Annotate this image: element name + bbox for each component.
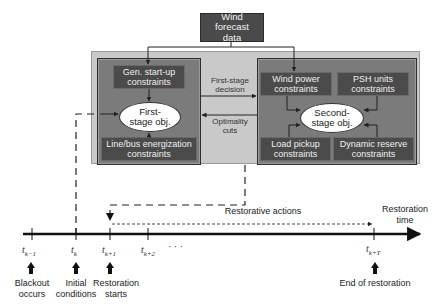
- initial-conditions-arrow-icon: [72, 262, 80, 274]
- event-arrows: [27, 262, 379, 274]
- event-restoration-starts: Restoration starts: [90, 278, 142, 299]
- end-restoration-arrow-icon: [371, 262, 379, 274]
- restoration-time-text: Restoration time: [382, 204, 428, 225]
- tick-label-k-minus-1: tk−1: [22, 244, 36, 258]
- event-end-of-restoration: End of restoration: [330, 278, 420, 289]
- tick-label-k-plus-T: tk+T: [366, 243, 381, 257]
- connectors-layer: [0, 0, 443, 308]
- tick-label-k-plus-1: tk+1: [102, 244, 116, 258]
- restoration-time-label: Restoration time: [375, 204, 435, 225]
- initial-conditions-dashed-link: [76, 114, 98, 235]
- tick-ellipsis: · · ·: [168, 241, 183, 252]
- tick-label-k: tk: [71, 244, 77, 258]
- restoration-start-marker: [106, 213, 114, 221]
- blackout-arrow-icon: [27, 262, 35, 274]
- restorative-actions-label: Restorative actions: [213, 206, 313, 217]
- stage-link-arrows: [201, 96, 257, 115]
- restoration-start-arrow-icon: [106, 262, 114, 274]
- second-stage-arrows: [287, 96, 377, 137]
- tick-label-k-plus-2: tk+2: [141, 244, 155, 258]
- wind-forecast-connector: [148, 42, 294, 71]
